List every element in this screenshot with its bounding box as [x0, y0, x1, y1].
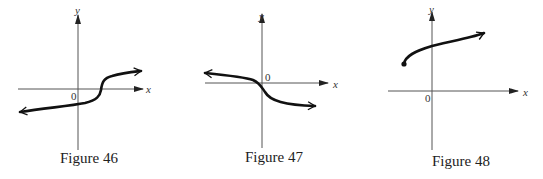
y-axis-label: y	[258, 10, 264, 22]
figure-caption: Figure 48	[432, 153, 490, 169]
y-axis-label: y	[74, 4, 80, 16]
figure-caption: Figure 47	[245, 149, 303, 165]
closed-endpoint	[401, 61, 406, 66]
function-curve	[404, 33, 484, 64]
figure-caption: Figure 46	[60, 150, 118, 166]
x-axis-label: x	[522, 86, 528, 98]
function-curve	[205, 73, 315, 106]
figure-47: y x 0 Figure 47	[205, 10, 338, 165]
origin-label: 0	[265, 71, 271, 83]
y-axis-label: y	[428, 3, 434, 15]
figures-canvas: y x 0 Figure 46 y x 0 Figure 47 y x 0 Fi…	[0, 0, 543, 179]
figure-46: y x 0 Figure 46	[18, 4, 151, 166]
origin-label: 0	[425, 92, 431, 104]
x-axis-label: x	[332, 78, 338, 90]
origin-label: 0	[71, 90, 77, 102]
figure-48: y x 0 Figure 48	[388, 3, 528, 169]
function-curve	[20, 71, 141, 112]
x-axis-label: x	[145, 83, 151, 95]
